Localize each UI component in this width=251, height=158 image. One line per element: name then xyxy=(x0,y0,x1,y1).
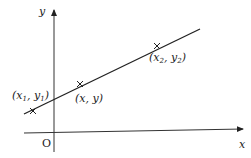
point-label-p1: (x1, y1) xyxy=(12,89,49,103)
y-axis-label: y xyxy=(38,5,46,18)
x-axis xyxy=(24,129,243,133)
straight-line xyxy=(24,29,200,114)
point-mark-p xyxy=(77,81,83,87)
origin-label: O xyxy=(42,137,51,150)
x-axis-label: x xyxy=(239,138,246,151)
diagram-canvas: y x O (x1, y1) (x, y) (x2, y2) xyxy=(0,0,251,158)
point-label-p: (x, y) xyxy=(75,92,103,105)
point-label-p2: (x2, y2) xyxy=(149,51,186,65)
point-mark-p2 xyxy=(154,43,160,49)
coordinate-plane: y x O (x1, y1) (x, y) (x2, y2) xyxy=(0,0,251,158)
